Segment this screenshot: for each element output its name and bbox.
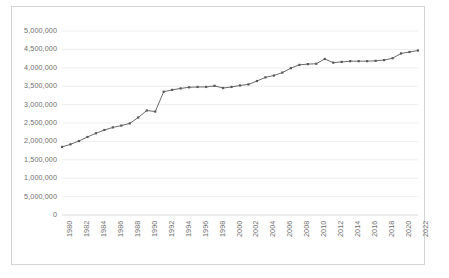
x-axis-tick-label: 2012 — [336, 221, 345, 237]
x-axis-tick-label: 2014 — [353, 221, 362, 237]
x-axis-tick-labels: 1980198219841986198819901992199419961998… — [0, 0, 449, 278]
x-axis-tick-label: 1980 — [65, 221, 74, 237]
x-axis-tick-label: 2000 — [235, 221, 244, 237]
x-axis-tick-label: 2022 — [421, 221, 430, 237]
x-axis-tick-label: 1982 — [82, 221, 91, 237]
x-axis-tick-label: 1992 — [167, 221, 176, 237]
x-axis-tick-label: 1990 — [150, 221, 159, 237]
x-axis-tick-label: 1994 — [184, 221, 193, 237]
x-axis-tick-label: 2010 — [319, 221, 328, 237]
x-axis-tick-label: 1988 — [133, 221, 142, 237]
x-axis-tick-label: 2006 — [285, 221, 294, 237]
x-axis-tick-label: 1986 — [116, 221, 125, 237]
x-axis-tick-label: 1996 — [201, 221, 210, 237]
x-axis-tick-label: 1998 — [218, 221, 227, 237]
x-axis-tick-label: 2016 — [370, 221, 379, 237]
x-axis-tick-label: 1984 — [99, 221, 108, 237]
x-axis-tick-label: 2002 — [251, 221, 260, 237]
x-axis-tick-label: 2020 — [404, 221, 413, 237]
x-axis-tick-label: 2018 — [387, 221, 396, 237]
x-axis-tick-label: 2008 — [302, 221, 311, 237]
x-axis-tick-label: 2004 — [268, 221, 277, 237]
